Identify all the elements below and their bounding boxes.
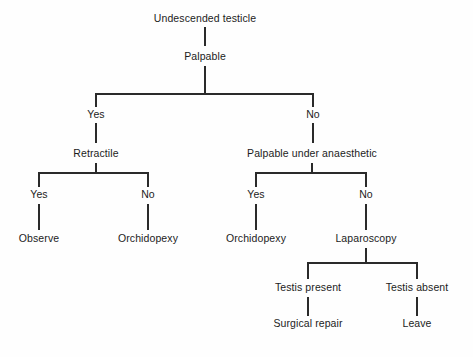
flow-node-n18: Leave	[402, 317, 431, 329]
flow-node-n11: Observe	[19, 232, 59, 244]
flow-node-n15: Testis present	[275, 281, 341, 293]
flow-node-n12: Orchidopexy	[118, 232, 179, 244]
flow-node-n16: Testis absent	[386, 281, 449, 293]
flowchart-background	[0, 0, 473, 357]
flow-node-n10: No	[359, 188, 373, 200]
flow-node-n6: Palpable under anaesthetic	[247, 147, 377, 159]
flow-node-n7: Yes	[30, 188, 47, 200]
flowchart-canvas: Undescended testiclePalpableYesNoRetract…	[0, 0, 473, 357]
flow-node-n4: No	[306, 108, 320, 120]
flow-node-n8: No	[141, 188, 155, 200]
flow-node-n3: Yes	[87, 108, 104, 120]
flow-node-n9: Yes	[247, 188, 264, 200]
flow-node-n5: Retractile	[73, 147, 118, 159]
flowchart-svg: Undescended testiclePalpableYesNoRetract…	[0, 0, 473, 357]
flow-node-n13: Orchidopexy	[226, 232, 287, 244]
flow-node-n17: Surgical repair	[273, 317, 343, 329]
flow-node-n1: Undescended testicle	[154, 12, 256, 24]
flow-node-n2: Palpable	[184, 50, 226, 62]
flow-node-n14: Laparoscopy	[335, 232, 397, 244]
